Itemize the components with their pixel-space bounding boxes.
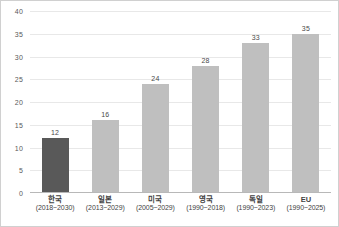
x-axis-category-period: (1990~2025) <box>281 204 331 213</box>
y-axis: 40 35 30 25 20 15 10 5 0 <box>1 11 27 193</box>
bar-value-label: 28 <box>202 57 210 64</box>
bar[interactable]: 16 <box>92 120 119 193</box>
bar-value-label: 24 <box>151 75 159 82</box>
plot-area: 12 16 24 28 33 <box>30 11 331 193</box>
bar-slot: 35 <box>281 11 331 193</box>
x-axis-category: 미국 (2005~2029) <box>130 195 180 225</box>
bar[interactable]: 35 <box>292 34 319 193</box>
x-axis-line <box>30 192 331 193</box>
x-axis-category-name: 한국 <box>30 195 80 204</box>
bar-slot: 16 <box>80 11 130 193</box>
x-axis-category-name: 미국 <box>130 195 180 204</box>
x-axis-category-period: (2018~2030) <box>30 204 80 213</box>
x-axis-category-name: 영국 <box>181 195 231 204</box>
y-axis-tick-label: 15 <box>1 121 23 128</box>
x-axis-category-period: (2013~2029) <box>80 204 130 213</box>
x-axis-category: 한국 (2018~2030) <box>30 195 80 225</box>
bars-container: 12 16 24 28 33 <box>30 11 331 193</box>
x-axis-category-period: (1990~2018) <box>181 204 231 213</box>
bar-value-label: 33 <box>252 34 260 41</box>
bar-slot: 12 <box>30 11 80 193</box>
x-axis-category-name: 일본 <box>80 195 130 204</box>
y-axis-tick-label: 25 <box>1 76 23 83</box>
bar-slot: 28 <box>181 11 231 193</box>
bar-value-label: 35 <box>302 25 310 32</box>
x-axis-category-period: (2005~2029) <box>130 204 180 213</box>
bar-slot: 24 <box>130 11 180 193</box>
x-axis-category-name: 독일 <box>231 195 281 204</box>
y-axis-tick-label: 5 <box>1 167 23 174</box>
bar[interactable]: 12 <box>42 138 69 193</box>
bar[interactable]: 33 <box>242 43 269 193</box>
bar-value-label: 12 <box>51 129 59 136</box>
y-axis-tick-label: 10 <box>1 144 23 151</box>
x-axis: 한국 (2018~2030) 일본 (2013~2029) 미국 (2005~2… <box>30 195 331 225</box>
bar[interactable]: 28 <box>192 66 219 193</box>
x-axis-category: 독일 (1990~2023) <box>231 195 281 225</box>
x-axis-category: 일본 (2013~2029) <box>80 195 130 225</box>
x-axis-category-name: EU <box>281 195 331 204</box>
x-axis-category: EU (1990~2025) <box>281 195 331 225</box>
y-axis-tick-label: 40 <box>1 8 23 15</box>
bar-value-label: 16 <box>101 111 109 118</box>
y-axis-tick-label: 20 <box>1 99 23 106</box>
bar-slot: 33 <box>231 11 281 193</box>
bar[interactable]: 24 <box>142 84 169 193</box>
y-axis-tick-label: 0 <box>1 190 23 197</box>
x-axis-category: 영국 (1990~2018) <box>181 195 231 225</box>
y-axis-tick-label: 35 <box>1 30 23 37</box>
bar-chart-figure: 40 35 30 25 20 15 10 5 0 12 <box>0 0 339 227</box>
x-axis-category-period: (1990~2023) <box>231 204 281 213</box>
y-axis-tick-label: 30 <box>1 53 23 60</box>
